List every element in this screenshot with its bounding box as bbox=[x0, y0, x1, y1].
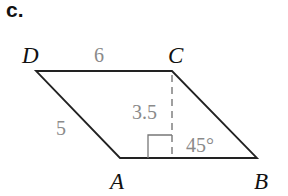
right-angle-marker bbox=[148, 135, 172, 158]
height-label: 3.5 bbox=[132, 101, 157, 123]
vertex-label-b: B bbox=[254, 169, 268, 194]
vertex-label-c: C bbox=[168, 43, 184, 68]
vertex-label-a: A bbox=[108, 169, 125, 194]
side-length-left: 5 bbox=[56, 117, 66, 139]
vertex-label-d: D bbox=[21, 43, 39, 68]
side-length-top: 6 bbox=[94, 44, 104, 66]
parallelogram-diagram: D C B A 6 5 3.5 45° bbox=[0, 0, 288, 196]
angle-label: 45° bbox=[186, 134, 214, 156]
